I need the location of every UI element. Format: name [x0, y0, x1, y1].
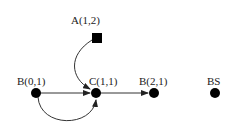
edge-b01-to-c-loop: [38, 97, 96, 121]
node-b01-circle: [31, 88, 41, 98]
node-b21-label: B(2,1): [139, 76, 167, 87]
node-bs-circle: [210, 88, 220, 98]
node-c-circle: [91, 88, 101, 98]
node-a-label: A(1,2): [71, 15, 100, 26]
node-bs-label: BS: [207, 76, 220, 87]
node-b01-label: B(0,1): [17, 76, 45, 87]
node-a-square: [92, 33, 102, 43]
diagram-canvas: [0, 0, 237, 130]
node-c-label: C(1,1): [89, 76, 117, 87]
node-b21-circle: [149, 88, 159, 98]
